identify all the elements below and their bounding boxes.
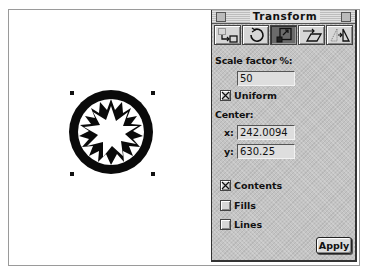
tab-scale[interactable] — [270, 25, 297, 45]
lines-checkbox[interactable] — [220, 219, 231, 230]
tab-move[interactable] — [214, 25, 241, 45]
move-icon — [217, 27, 239, 43]
starburst-circle-artwork[interactable] — [67, 88, 155, 176]
apply-button[interactable]: Apply — [316, 237, 352, 254]
center-y-input[interactable] — [237, 144, 295, 159]
center-label: Center: — [215, 109, 253, 120]
uniform-checkbox[interactable] — [220, 90, 231, 101]
reflect-icon — [329, 27, 351, 43]
zoom-box-icon[interactable] — [341, 12, 351, 22]
uniform-label: Uniform — [234, 90, 277, 101]
fills-checkbox[interactable] — [220, 200, 231, 211]
contents-label: Contents — [234, 180, 282, 191]
drawing-canvas[interactable] — [9, 10, 211, 263]
center-x-label: x: — [224, 127, 234, 138]
panel-title: Transform — [250, 10, 320, 23]
center-y-label: y: — [224, 146, 234, 157]
panel-titlebar[interactable]: Transform — [212, 10, 355, 24]
fills-label: Fills — [234, 200, 256, 211]
rotate-icon — [247, 27, 265, 43]
center-x-input[interactable] — [237, 125, 295, 140]
skew-icon — [301, 27, 323, 43]
contents-checkbox[interactable] — [220, 180, 231, 191]
transform-panel: Transform — [211, 10, 357, 262]
check-x-icon — [221, 91, 230, 100]
scale-factor-input[interactable] — [237, 71, 295, 86]
close-box-icon[interactable] — [216, 12, 226, 22]
transform-tool-tabs — [214, 25, 354, 46]
lines-label: Lines — [234, 219, 262, 230]
scale-icon — [275, 27, 293, 43]
tab-skew[interactable] — [298, 25, 325, 45]
check-x-icon — [221, 181, 230, 190]
tab-reflect[interactable] — [326, 25, 353, 45]
scale-factor-label: Scale factor %: — [215, 55, 292, 66]
tab-rotate[interactable] — [242, 25, 269, 45]
